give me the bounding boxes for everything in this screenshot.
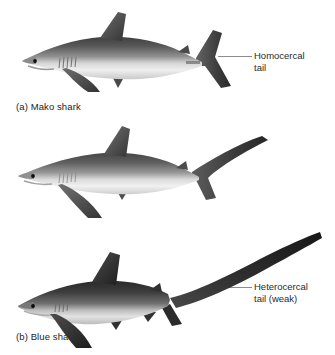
thresher-heterocercal-tail-upper-lobe <box>170 232 322 308</box>
mako-tail-label: Homocercal tail <box>254 50 305 73</box>
mako-tail-label-line1: Homocercal <box>254 50 305 62</box>
mako-body <box>22 37 202 80</box>
shark-tail-types-figure: Homocercal tail (a) Mako shark <box>0 0 335 355</box>
mako-leader-line <box>218 56 252 57</box>
thresher-first-dorsal-fin <box>92 252 120 285</box>
panel-mako-shark: Homocercal tail (a) Mako shark <box>0 0 335 118</box>
blue-heterocercal-tail <box>190 136 268 200</box>
blue-first-dorsal-fin <box>104 126 130 157</box>
blue-eye <box>31 174 35 178</box>
mako-caudal-keel <box>186 61 200 64</box>
thresher-shark-illustration <box>0 230 335 355</box>
panel-thresher-shark: Heterocercal tail (strong) (c) Thresher … <box>0 230 335 355</box>
mako-first-dorsal-fin <box>100 12 126 41</box>
blue-body <box>18 153 199 195</box>
thresher-eye <box>31 304 35 308</box>
mako-homocercal-tail <box>196 30 231 88</box>
panel-blue-shark: Heterocercal tail (weak) (b) Blue shark <box>0 118 335 230</box>
mako-tail-label-line2: tail <box>254 62 305 74</box>
mako-eye <box>33 59 37 63</box>
blue-shark-illustration <box>0 118 335 230</box>
mako-caption: (a) Mako shark <box>16 101 81 112</box>
